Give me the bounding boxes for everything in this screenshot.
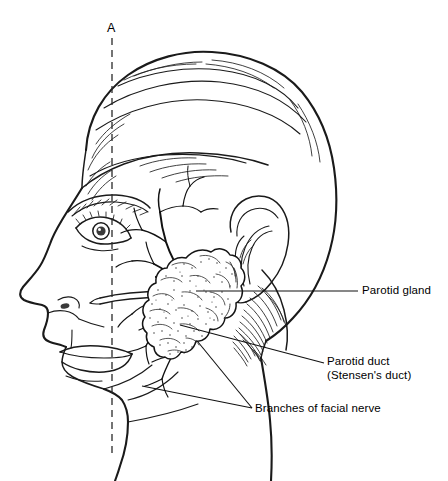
label-parotid-duct-line2: (Stensen's duct)	[327, 369, 411, 381]
label-branches-of-facial-nerve: Branches of facial nerve	[255, 402, 381, 416]
anatomy-illustration	[0, 0, 448, 481]
neck	[128, 358, 272, 481]
anatomical-figure: A Parotid gland Parotid duct(Stensen's d…	[0, 0, 448, 481]
label-parotid-gland: Parotid gland	[362, 284, 431, 298]
nose	[48, 297, 104, 348]
eyebrow	[68, 195, 150, 216]
leader-parotid-duct	[180, 325, 324, 363]
label-parotid-duct-line1: Parotid duct	[327, 355, 390, 367]
hair	[82, 60, 320, 200]
label-parotid-duct: Parotid duct(Stensen's duct)	[327, 355, 411, 382]
leader-branches-upper	[198, 342, 252, 408]
axis-label-a: A	[107, 22, 115, 36]
eye	[76, 211, 131, 251]
